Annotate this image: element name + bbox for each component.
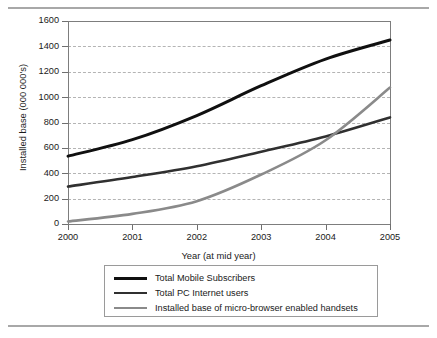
y-tick-label-600: 600 xyxy=(13,143,59,152)
legend-item-total-mobile-subscribers: Total Mobile Subscribers xyxy=(114,271,255,285)
x-tick-label-2002: 2002 xyxy=(170,233,224,242)
x-tick-label-2005: 2005 xyxy=(363,233,417,242)
top-divider-rule xyxy=(8,7,429,9)
legend-item-micro-browser-handsets: Installed base of micro-browser enabled … xyxy=(114,301,358,315)
legend-swatch-series-1 xyxy=(114,292,147,294)
x-tick-label-2003: 2003 xyxy=(234,233,288,242)
x-tick-label-2001: 2001 xyxy=(105,233,159,242)
plot-area xyxy=(68,21,390,224)
plot-right-border xyxy=(390,21,391,224)
legend-label-series-1: Total PC Internet users xyxy=(155,288,248,298)
legend-item-total-pc-internet-users: Total PC Internet users xyxy=(114,286,248,300)
y-tick-label-1600: 1600 xyxy=(13,16,59,25)
x-axis-line xyxy=(68,224,390,225)
x-tick-2005 xyxy=(390,224,391,230)
x-axis-title: Year (at mid year) xyxy=(0,250,437,261)
x-tick-label-2000: 2000 xyxy=(41,233,95,242)
chart-figure: Installed base (000 000's) 0200400600800… xyxy=(0,0,437,338)
y-tick-label-1400: 1400 xyxy=(13,42,59,51)
y-tick-label-1000: 1000 xyxy=(13,93,59,102)
legend-swatch-series-0 xyxy=(114,277,147,280)
y-tick-label-800: 800 xyxy=(13,118,59,127)
y-tick-label-400: 400 xyxy=(13,169,59,178)
legend-swatch-series-2 xyxy=(114,307,147,309)
legend-box: Total Mobile Subscribers Total PC Intern… xyxy=(104,265,378,317)
legend-label-series-2: Installed base of micro-browser enabled … xyxy=(155,303,358,313)
bottom-divider-rule xyxy=(8,325,429,327)
y-tick-label-0: 0 xyxy=(13,219,59,228)
legend-label-series-0: Total Mobile Subscribers xyxy=(155,273,255,283)
y-tick-label-1200: 1200 xyxy=(13,67,59,76)
x-tick-label-2004: 2004 xyxy=(299,233,353,242)
y-tick-label-200: 200 xyxy=(13,194,59,203)
